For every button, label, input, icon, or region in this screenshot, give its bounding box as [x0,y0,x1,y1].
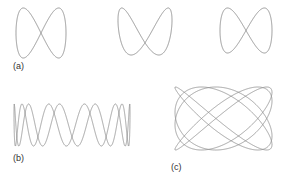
curve-a-figure-eight [16,8,66,58]
curve-c-dense [175,87,272,150]
curve-a-loop [118,8,172,55]
panel-label-b: (b) [13,153,24,163]
panel-label-c: (c) [171,162,182,172]
lissajous-figures [0,0,286,180]
panel-label-a: (a) [13,61,24,71]
curve-a-parabola [220,8,272,53]
curve-b-zigzag [14,104,130,146]
